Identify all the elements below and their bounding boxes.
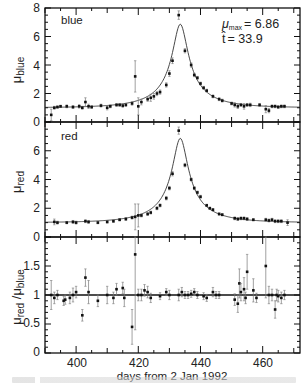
point-marker <box>140 294 143 297</box>
data-point <box>268 219 271 222</box>
x-tick-labels: 400 420 440 460 <box>67 356 273 370</box>
point-marker <box>205 204 208 207</box>
data-point <box>106 106 109 110</box>
point-marker <box>271 294 274 297</box>
data-point <box>81 310 84 322</box>
point-marker <box>190 64 193 67</box>
point-marker <box>274 220 277 223</box>
point-marker <box>199 195 202 198</box>
data-point <box>271 105 274 108</box>
ylabel-blue-mu: μ <box>9 76 24 84</box>
xtick-460: 460 <box>253 356 273 370</box>
point-marker <box>237 302 240 305</box>
data-point <box>237 104 240 108</box>
data-point <box>123 289 126 306</box>
point-marker <box>264 265 267 268</box>
data-point <box>283 105 286 108</box>
data-point <box>87 104 90 108</box>
data-point <box>87 281 90 304</box>
ylabel-ratio-slash-mu: /μ <box>9 288 24 303</box>
point-marker <box>274 105 277 108</box>
mu-max-subscript: max <box>229 24 243 31</box>
point-marker <box>134 75 137 78</box>
point-marker <box>131 326 134 329</box>
data-point <box>97 221 100 224</box>
point-marker <box>218 213 221 216</box>
data-point <box>159 293 162 300</box>
data-point <box>277 290 280 302</box>
data-point <box>240 217 243 220</box>
data-point <box>280 220 283 223</box>
data-point <box>134 61 137 92</box>
point-marker <box>165 291 168 294</box>
data-point <box>271 289 274 301</box>
data-point <box>134 204 137 230</box>
point-marker <box>202 87 205 90</box>
data-point <box>199 82 202 85</box>
figure: blue μmax= 6.86 t̂= 33.9 μblue red μred … <box>0 0 306 385</box>
point-marker <box>215 294 218 297</box>
point-marker <box>233 104 236 107</box>
point-marker <box>97 300 100 303</box>
ytick-red-0: 0 <box>33 230 40 244</box>
point-marker <box>193 291 196 294</box>
data-point <box>205 89 208 92</box>
ylabel-red: μred <box>9 171 26 193</box>
ylabel-blue: μblue <box>9 56 26 83</box>
annotation-block: μmax= 6.86 t̂= 33.9 <box>221 17 280 46</box>
y-tick-labels-red: 6 4 2 0 <box>33 144 40 244</box>
point-marker <box>165 84 168 87</box>
point-marker <box>237 105 240 108</box>
data-point <box>246 218 249 221</box>
point-marker <box>56 294 59 297</box>
data-point <box>90 106 93 109</box>
data-point <box>100 104 103 107</box>
point-marker <box>199 82 202 85</box>
data-point <box>246 103 249 106</box>
point-marker <box>53 106 56 109</box>
data-point <box>187 292 190 299</box>
data-point <box>121 282 124 294</box>
point-marker <box>240 217 243 220</box>
data-point <box>190 290 193 297</box>
data-point <box>75 221 78 224</box>
point-marker <box>221 99 224 102</box>
xtick-420: 420 <box>129 356 149 370</box>
data-point <box>131 216 134 219</box>
data-point <box>125 103 128 106</box>
data-point <box>221 99 224 102</box>
point-marker <box>212 291 215 294</box>
point-marker <box>184 294 187 297</box>
data-point <box>280 292 283 304</box>
point-marker <box>255 297 258 300</box>
point-marker <box>252 218 255 221</box>
point-marker <box>193 74 196 77</box>
data-point <box>125 218 128 221</box>
point-marker <box>87 291 90 294</box>
point-marker <box>277 220 280 223</box>
point-marker <box>112 220 115 223</box>
data-point <box>165 83 168 87</box>
data-point <box>159 204 162 207</box>
point-marker <box>125 218 128 221</box>
point-marker <box>280 297 283 300</box>
point-marker <box>72 294 75 297</box>
panel-red-points <box>53 127 289 230</box>
data-point <box>56 290 59 299</box>
data-point <box>140 214 143 217</box>
data-point <box>168 71 171 77</box>
data-point <box>283 290 286 299</box>
data-point <box>84 98 87 107</box>
point-marker <box>72 221 75 224</box>
point-marker <box>159 91 162 94</box>
data-point <box>252 279 255 302</box>
data-point <box>65 221 68 224</box>
point-marker <box>193 187 196 190</box>
point-marker <box>56 221 59 224</box>
point-marker <box>240 104 243 107</box>
data-point <box>106 286 109 303</box>
data-point <box>286 220 289 226</box>
ylabel-ratio-mu: μ <box>9 317 24 325</box>
point-marker <box>218 98 221 101</box>
data-point <box>177 11 180 20</box>
